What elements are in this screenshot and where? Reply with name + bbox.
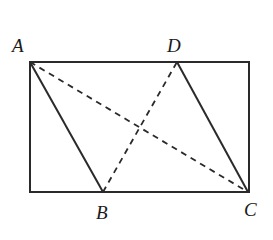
label-c: C: [244, 199, 257, 220]
label-d: D: [166, 35, 181, 56]
geometry-diagram: A D B C: [0, 0, 273, 240]
segment-ab: [30, 62, 103, 192]
segment-dc: [177, 62, 248, 192]
label-b: B: [96, 202, 108, 223]
diagonal-ac-dashed: [30, 62, 248, 192]
diagram-canvas: A D B C: [0, 0, 273, 240]
diagonal-bd-dashed: [103, 62, 177, 192]
label-a: A: [10, 35, 24, 56]
